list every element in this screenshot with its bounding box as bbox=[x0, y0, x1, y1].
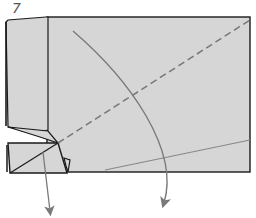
left-flap bbox=[6, 17, 48, 132]
origami-diagram bbox=[0, 0, 256, 218]
